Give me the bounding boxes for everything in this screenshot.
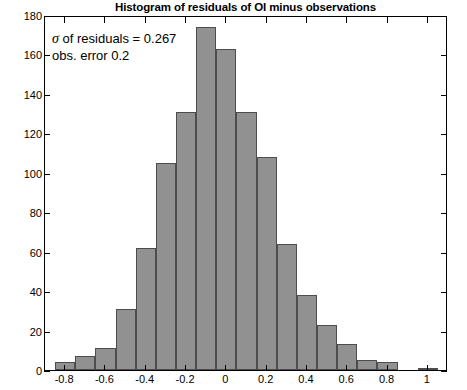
y-tick-mark xyxy=(44,371,50,372)
x-tick-label: 0.8 xyxy=(379,374,394,385)
y-tick-mark-right xyxy=(441,134,447,135)
y-tick-mark xyxy=(44,213,50,214)
x-tick-mark xyxy=(346,365,347,371)
x-tick-label: 0.6 xyxy=(339,374,354,385)
x-tick-mark-top xyxy=(306,17,307,23)
y-tick-label: 40 xyxy=(30,287,42,298)
x-tick-mark-top xyxy=(266,17,267,23)
x-tick-mark xyxy=(427,365,428,371)
x-tick-label: -0.4 xyxy=(135,374,154,385)
x-tick-label: -0.6 xyxy=(95,374,114,385)
y-tick-label: 80 xyxy=(30,208,42,219)
y-tick-mark xyxy=(44,292,50,293)
histogram-figure: Histogram of residuals of OI minus obser… xyxy=(0,0,467,390)
x-tick-mark xyxy=(145,365,146,371)
histogram-bar xyxy=(136,248,156,370)
y-tick-label: 20 xyxy=(30,327,42,338)
x-tick-mark xyxy=(185,365,186,371)
y-tick-label: 100 xyxy=(24,169,42,180)
x-tick-mark xyxy=(387,365,388,371)
histogram-bar xyxy=(236,112,256,370)
y-tick-mark-right xyxy=(441,253,447,254)
sigma-symbol: σ xyxy=(52,31,59,46)
y-tick-mark-right xyxy=(441,371,447,372)
histogram-bar xyxy=(75,356,95,370)
plot-area xyxy=(44,16,447,371)
x-tick-mark-top xyxy=(104,17,105,23)
y-tick-mark-right xyxy=(441,95,447,96)
x-tick-label: 0.2 xyxy=(258,374,273,385)
x-tick-mark xyxy=(64,365,65,371)
histogram-bar xyxy=(176,112,196,370)
y-tick-mark-right xyxy=(441,292,447,293)
histogram-bar xyxy=(297,295,317,370)
annotation-line-obs-error: obs. error 0.2 xyxy=(52,47,176,64)
histogram-bar xyxy=(277,244,297,370)
x-tick-mark-top xyxy=(145,17,146,23)
y-tick-label: 180 xyxy=(24,11,42,22)
histogram-bar xyxy=(196,27,216,370)
x-tick-label: -0.8 xyxy=(55,374,74,385)
y-tick-mark xyxy=(44,55,50,56)
histogram-bar xyxy=(257,157,277,370)
y-tick-mark xyxy=(44,95,50,96)
y-tick-mark xyxy=(44,253,50,254)
annotation-line-sigma: σ of residuals = 0.267 xyxy=(52,30,176,47)
y-tick-mark-right xyxy=(441,213,447,214)
x-tick-mark-top xyxy=(185,17,186,23)
stats-annotation: σ of residuals = 0.267 obs. error 0.2 xyxy=(52,30,176,64)
chart-title: Histogram of residuals of OI minus obser… xyxy=(44,0,447,14)
x-tick-mark xyxy=(266,365,267,371)
y-tick-label: 0 xyxy=(36,366,42,377)
y-tick-label: 160 xyxy=(24,50,42,61)
x-tick-mark-top xyxy=(427,17,428,23)
x-tick-label: 0 xyxy=(222,374,228,385)
histogram-bar xyxy=(95,348,115,370)
y-tick-mark-right xyxy=(441,55,447,56)
y-tick-mark-right xyxy=(441,16,447,17)
annotation-sigma-text: of residuals = 0.267 xyxy=(59,31,176,46)
y-tick-mark xyxy=(44,174,50,175)
histogram-bar xyxy=(116,309,136,370)
x-tick-mark-top xyxy=(225,17,226,23)
y-tick-label: 140 xyxy=(24,90,42,101)
x-tick-mark-top xyxy=(346,17,347,23)
x-tick-label: 1 xyxy=(424,374,430,385)
x-tick-label: -0.2 xyxy=(176,374,195,385)
histogram-bar xyxy=(357,360,377,370)
y-tick-label: 120 xyxy=(24,129,42,140)
y-tick-label: 60 xyxy=(30,248,42,259)
x-tick-mark xyxy=(306,365,307,371)
histogram-bar xyxy=(317,325,337,370)
x-tick-mark xyxy=(104,365,105,371)
histogram-bar xyxy=(216,49,236,370)
x-tick-label: 0.4 xyxy=(298,374,313,385)
histogram-bars xyxy=(45,17,446,370)
x-tick-mark-top xyxy=(387,17,388,23)
y-tick-mark-right xyxy=(441,332,447,333)
y-tick-mark xyxy=(44,16,50,17)
x-tick-mark-top xyxy=(64,17,65,23)
y-tick-mark xyxy=(44,332,50,333)
histogram-bar xyxy=(156,163,176,370)
y-tick-mark xyxy=(44,134,50,135)
y-tick-mark-right xyxy=(441,174,447,175)
x-tick-mark xyxy=(225,365,226,371)
